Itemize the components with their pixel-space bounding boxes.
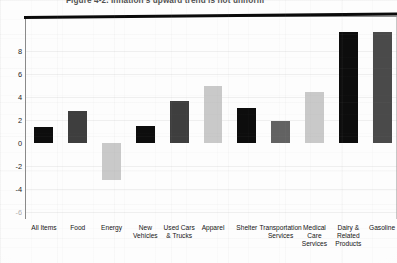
x-label-new-vehicles: NewVehicles [133, 224, 158, 240]
figure-page: Figure 4-2. Inflation's upward trend is … [0, 0, 397, 263]
x-label-gasoline: Gasoline [369, 224, 395, 232]
bar-transportation-services [271, 121, 290, 143]
y-tick-label: 2 [18, 115, 22, 124]
x-label-line: Products [335, 240, 361, 248]
y-tick-label: -2 [15, 162, 22, 171]
x-label-line: Used Cars [164, 224, 195, 232]
x-label-line: Transportation [259, 224, 301, 232]
x-label-line: Services [259, 232, 301, 240]
bar-energy [102, 143, 121, 180]
y-tick-label: 4 [18, 92, 22, 101]
bar-medical-care-services [305, 92, 324, 143]
x-label-line: Dairy & [335, 224, 361, 232]
y-tick-label: -4 [15, 185, 22, 194]
bar-shelter [237, 108, 256, 143]
x-label-dairy-related-products: Dairy &RelatedProducts [335, 224, 361, 249]
bar-used-cars-trucks [170, 101, 189, 143]
bar-series [25, 16, 397, 219]
x-label-all-items: All Items [31, 224, 56, 232]
x-label-line: Care [302, 232, 327, 240]
bar-gasoline [373, 32, 392, 143]
y-tick-label: 0 [18, 139, 22, 148]
x-label-line: Medical [302, 224, 327, 232]
x-label-transportation-services: TransportationServices [259, 224, 301, 240]
bar-new-vehicles [136, 126, 155, 143]
x-label-line: Services [302, 240, 327, 248]
x-label-line: & Trucks [164, 232, 195, 240]
x-axis-category-labels: All ItemsFoodEnergyNewVehiclesUsed Cars&… [25, 224, 397, 263]
bar-apparel [204, 86, 223, 143]
x-label-line: Gasoline [369, 224, 395, 232]
bar-food [68, 111, 87, 143]
x-label-line: Vehicles [133, 232, 158, 240]
x-label-line: Shelter [236, 224, 257, 232]
x-label-used-cars-trucks: Used Cars& Trucks [164, 224, 195, 240]
x-label-line: Related [335, 232, 361, 240]
x-label-line: Energy [101, 224, 122, 232]
x-label-line: Food [70, 224, 85, 232]
x-label-line: All Items [31, 224, 56, 232]
x-label-apparel: Apparel [202, 224, 225, 232]
chart-plot-area: 86420-2-4-6 [25, 16, 397, 219]
bar-all-items [34, 127, 53, 143]
y-tick-label: -6 [15, 208, 22, 217]
x-label-energy: Energy [101, 224, 122, 232]
bar-dairy-related-products [339, 32, 358, 143]
y-tick-label: 6 [18, 69, 22, 78]
figure-title: Figure 4-2. Inflation's upward trend is … [66, 0, 264, 5]
x-label-food: Food [70, 224, 85, 232]
x-label-line: Apparel [202, 224, 225, 232]
x-label-shelter: Shelter [236, 224, 257, 232]
y-tick-label: 8 [18, 46, 22, 55]
x-label-line: New [133, 224, 158, 232]
x-label-medical-care-services: MedicalCareServices [302, 224, 327, 249]
